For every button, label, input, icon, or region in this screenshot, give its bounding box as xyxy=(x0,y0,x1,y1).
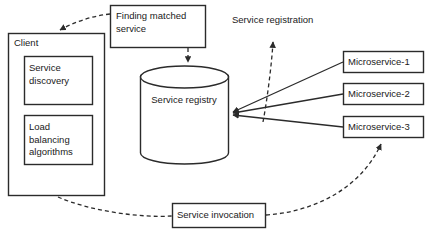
microservice-3-box xyxy=(344,117,424,138)
edge-microservice-2-to-registry xyxy=(233,94,343,113)
edge-microservice-3-to-registry xyxy=(233,115,343,127)
microservice-1-box xyxy=(344,52,424,73)
service-registry-cylinder xyxy=(141,66,229,164)
service-discovery-box xyxy=(25,57,93,105)
edge-invocation-to-microservice-3 xyxy=(266,144,381,215)
microservice-2-box xyxy=(344,84,424,105)
load-balancing-box xyxy=(25,116,93,165)
diagram-canvas xyxy=(0,0,426,240)
service-registry-diagram: Client Service discovery Load balancing … xyxy=(0,0,426,240)
edge-service-registration-callout xyxy=(263,42,273,122)
edge-finding-to-client xyxy=(60,14,110,30)
finding-matched-service-box xyxy=(111,6,206,48)
edge-microservice-1-to-registry xyxy=(233,62,343,112)
edge-client-to-invocation xyxy=(58,197,172,216)
service-invocation-box xyxy=(173,204,266,228)
